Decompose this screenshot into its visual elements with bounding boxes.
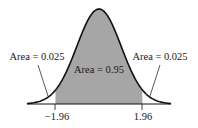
- right-critical-label: 1.96: [134, 111, 152, 122]
- normal-curve-plot: Area = 0.025 Area = 0.95 Area = 0.025 −1…: [0, 0, 198, 128]
- center-area-label: Area = 0.95: [74, 64, 124, 75]
- left-critical-label: −1.96: [45, 111, 69, 122]
- normal-distribution-figure: Area = 0.025 Area = 0.95 Area = 0.025 −1…: [0, 0, 198, 128]
- shaded-center-region: [55, 9, 142, 104]
- left-area-label: Area = 0.025: [9, 51, 64, 62]
- right-area-label: Area = 0.025: [132, 51, 187, 62]
- left-area-pointer: [38, 65, 48, 96]
- right-area-pointer: [150, 65, 160, 96]
